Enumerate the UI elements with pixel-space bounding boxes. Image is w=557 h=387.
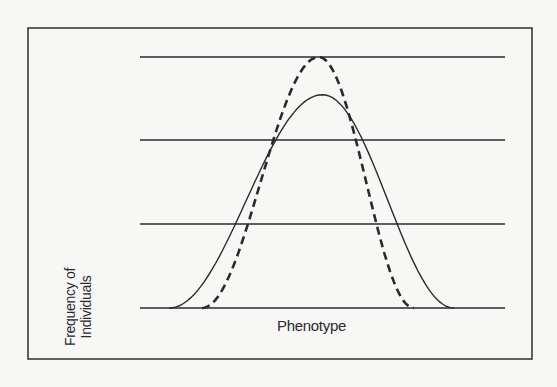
dashed-curve	[202, 57, 414, 308]
y-axis-label: Frequency of Individuals	[62, 257, 106, 357]
y-axis-label-line2: Individuals	[78, 257, 94, 357]
solid-curve	[169, 95, 454, 308]
x-axis-label: Phenotype	[277, 317, 346, 334]
y-axis-label-line1: Frequency of	[62, 257, 78, 357]
